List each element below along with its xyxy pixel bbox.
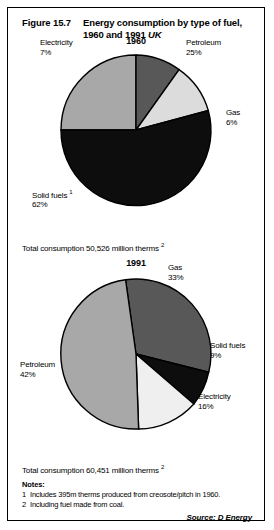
pie-label-1960-petroleum-value: 25% <box>186 48 202 57</box>
pie-label-1991-electricity-value: 16% <box>198 402 214 411</box>
pie-label-1991-electricity: Electricity 16% <box>198 392 231 411</box>
note-text: Includes 395m therms produced from creos… <box>30 490 220 500</box>
pie-label-1991-electricity-name: Electricity <box>198 392 231 401</box>
pie-label-1991-solid-fuels: Solid fuels 9% <box>210 341 245 360</box>
total-consumption-1991-text: Total consumption 60,451 million therms <box>22 466 159 475</box>
note-item: 1 Includes 395m therms produced from cre… <box>22 490 254 500</box>
pie-label-1991-gas: Gas 33% <box>168 263 184 282</box>
note-item: 2 Including fuel made from coal. <box>22 500 254 510</box>
pie-label-1991-gas-value: 33% <box>168 273 184 282</box>
pie-label-1991-solid-fuels-name: Solid fuels <box>210 341 245 350</box>
note-number: 2 <box>22 500 30 510</box>
pie-label-1960-solid-fuels-value: 62% <box>32 200 48 209</box>
notes-section: Notes: 1 Includes 395m therms produced f… <box>22 480 254 509</box>
figure-container: Figure 15.7 Energy consumption by type o… <box>7 7 265 521</box>
pie-1991-svg <box>56 274 216 434</box>
pie-label-1991-petroleum-name: Petroleum <box>20 360 55 369</box>
pie-label-1960-solid-fuels-name: Solid fuels <box>32 191 67 200</box>
note-text: Including fuel made from coal. <box>30 500 124 510</box>
figure-number: Figure 15.7 <box>22 17 71 28</box>
pie-label-1960-petroleum-name: Petroleum <box>186 38 221 47</box>
total-consumption-1960: Total consumption 50,526 million therms2 <box>22 242 164 253</box>
pie-label-1991-petroleum: Petroleum 42% <box>20 360 55 379</box>
pie-label-1960-gas-value: 6% <box>226 118 237 127</box>
total-consumption-1991-footnote: 2 <box>159 464 164 470</box>
pie-1991-graphic <box>56 274 216 438</box>
pie-label-1960-electricity: Electricity 7% <box>40 38 73 57</box>
pie-label-1960-gas: Gas 6% <box>226 108 240 127</box>
pie-chart-1991: 1991 Gas 33% Solid fuels 9% Electricity <box>8 258 264 458</box>
pie-label-1960-electricity-value: 7% <box>40 48 51 57</box>
pie-label-1991-petroleum-value: 42% <box>20 370 36 379</box>
note-number: 1 <box>22 490 30 500</box>
pie-1960-svg <box>56 50 216 210</box>
pie-label-1991-gas-name: Gas <box>168 263 182 272</box>
pie-label-1960-electricity-name: Electricity <box>40 38 73 47</box>
pie-label-1991-solid-fuels-value: 9% <box>210 351 221 360</box>
pie-label-1960-solid-fuels-footnote: 1 <box>67 189 72 195</box>
notes-heading: Notes: <box>22 480 254 489</box>
pie-slice-1960-petroleum <box>61 55 136 130</box>
figure-title-line1: Energy consumption by type of fuel, <box>83 17 242 28</box>
pie-chart-1960: 1960 Electricity 7% Petroleum 25% Gas 6 <box>8 36 264 236</box>
total-consumption-1960-footnote: 2 <box>159 242 164 248</box>
total-consumption-1960-text: Total consumption 50,526 million therms <box>22 244 159 253</box>
total-consumption-1991: Total consumption 60,451 million therms2 <box>22 464 164 475</box>
pie-label-1960-solid-fuels: Solid fuels1 62% <box>32 188 72 210</box>
pie-1960-graphic <box>56 50 216 214</box>
pie-label-1960-petroleum: Petroleum 25% <box>186 38 221 57</box>
source-attribution: Source: D Energy <box>186 513 252 522</box>
chart-year-label-1991: 1991 <box>8 258 264 268</box>
pie-label-1960-gas-name: Gas <box>226 108 240 117</box>
